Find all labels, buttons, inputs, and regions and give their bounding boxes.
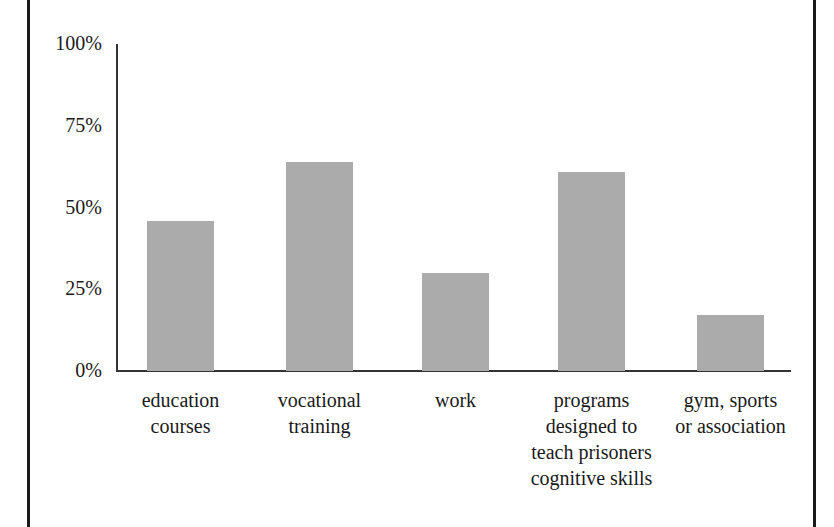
y-tick-label: 0% bbox=[30, 359, 102, 381]
y-tick-label: 50% bbox=[30, 196, 102, 218]
bar-chart: 0%25%50%75%100% education coursesvocatio… bbox=[0, 0, 834, 527]
y-tick-label: 75% bbox=[30, 114, 102, 136]
x-category-label: education courses bbox=[101, 387, 261, 439]
bar bbox=[697, 315, 764, 371]
y-tick-label: 25% bbox=[30, 277, 102, 299]
bar bbox=[558, 172, 625, 371]
x-category-label: programs designed to teach prisoners cog… bbox=[512, 387, 672, 491]
y-tick-label: 100% bbox=[30, 32, 102, 54]
bar bbox=[147, 221, 214, 371]
y-axis-line bbox=[116, 44, 118, 372]
bar bbox=[422, 273, 489, 371]
x-category-label: gym, sports or association bbox=[651, 387, 811, 439]
bar bbox=[286, 162, 353, 371]
